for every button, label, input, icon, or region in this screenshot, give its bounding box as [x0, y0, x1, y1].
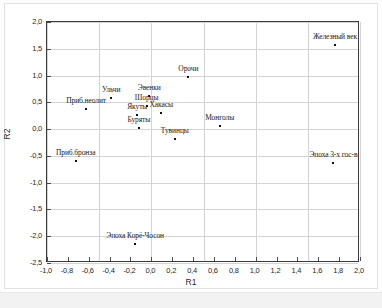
- gridline-horizontal: [47, 209, 358, 210]
- data-point-marker: [138, 127, 140, 129]
- x-axis-tick: [68, 257, 69, 261]
- x-axis-tick: [130, 257, 131, 261]
- x-axis-tick-label: 1,4: [291, 266, 301, 275]
- data-point-marker: [85, 108, 87, 110]
- x-axis-tick: [110, 257, 111, 261]
- gridline-horizontal: [47, 236, 358, 237]
- x-axis-tick-label: 0,6: [208, 266, 218, 275]
- gridline-horizontal: [47, 49, 358, 50]
- x-axis-tick: [277, 257, 278, 261]
- gridline-vertical: [151, 22, 152, 261]
- x-axis-tick: [172, 257, 173, 261]
- data-point-marker: [174, 138, 176, 140]
- data-point-label: Якуты: [127, 102, 147, 111]
- gridline-vertical: [204, 22, 205, 261]
- y-axis-tick: [47, 156, 51, 157]
- x-axis-tick: [297, 257, 298, 261]
- y-axis-tick: [47, 22, 51, 23]
- y-axis-tick-label: 2,0: [20, 17, 42, 26]
- x-axis-tick-label: 0,4: [187, 266, 197, 275]
- data-point-label: Железный век: [313, 32, 357, 41]
- data-point-marker: [160, 112, 162, 114]
- x-axis-tick-label: -0,6: [82, 266, 94, 275]
- data-point-label: Приб.бронза: [56, 148, 95, 157]
- y-axis-tick-label: 0,5: [20, 97, 42, 106]
- y-axis-tick: [47, 209, 51, 210]
- x-axis-title: R1: [0, 277, 382, 287]
- data-point-label: Эпоха Корё-Чосон: [106, 231, 164, 240]
- y-axis-tick: [47, 49, 51, 50]
- data-point-label: Эвенки: [138, 83, 161, 92]
- x-axis-tick: [235, 257, 236, 261]
- data-point-label: Орочи: [178, 64, 198, 73]
- figure-container: Железный векОрочиУльчиЭвенкиШорцыПриб.не…: [0, 0, 382, 308]
- gridline-horizontal: [47, 76, 358, 77]
- x-axis-tick-label: -0,8: [61, 266, 73, 275]
- x-axis-tick-label: 1,6: [312, 266, 322, 275]
- data-point-marker: [334, 44, 336, 46]
- x-axis-tick: [151, 257, 152, 261]
- y-axis-tick-label: -1,0: [20, 177, 42, 186]
- y-axis-tick: [47, 129, 51, 130]
- x-axis-tick: [47, 257, 48, 261]
- y-axis-tick: [47, 76, 51, 77]
- y-axis-tick-label: 0,0: [20, 124, 42, 133]
- data-point-marker: [75, 160, 77, 162]
- x-axis-tick-label: 0,8: [229, 266, 239, 275]
- y-axis-tick: [47, 183, 51, 184]
- x-axis-tick-label: -1,0: [40, 266, 52, 275]
- data-point-label: Хакасы: [150, 100, 173, 109]
- figure-footer-strip: [0, 292, 382, 308]
- y-axis-tick-label: -1,5: [20, 204, 42, 213]
- data-point-marker: [134, 243, 136, 245]
- x-axis-tick: [193, 257, 194, 261]
- gridline-vertical: [99, 22, 100, 261]
- data-point-label: Тувинцы: [161, 126, 189, 135]
- gridline-vertical: [256, 22, 257, 261]
- x-axis-tick-label: 1,0: [250, 266, 260, 275]
- data-point-marker: [219, 125, 221, 127]
- gridline-horizontal: [47, 183, 358, 184]
- x-axis-tick-label: -0,2: [123, 266, 135, 275]
- y-axis-tick-label: 1,0: [20, 70, 42, 79]
- data-point-label: Ульчи: [102, 85, 120, 94]
- x-axis-tick: [89, 257, 90, 261]
- x-axis-tick: [256, 257, 257, 261]
- x-axis-tick: [360, 257, 361, 261]
- x-axis-tick-label: 2,0: [354, 266, 364, 275]
- x-axis-tick: [339, 257, 340, 261]
- gridline-vertical: [308, 22, 309, 261]
- y-axis-title: R2: [2, 129, 12, 140]
- data-point-label: Монголы: [205, 113, 234, 122]
- x-axis-tick-label: 0,2: [166, 266, 176, 275]
- y-axis-tick: [47, 263, 51, 264]
- gridline-horizontal: [47, 263, 358, 264]
- x-axis-tick: [214, 257, 215, 261]
- y-axis-tick-label: 1,5: [20, 43, 42, 52]
- data-point-label: Эпоха 3-х гос-в: [309, 150, 357, 159]
- data-point-marker: [110, 97, 112, 99]
- data-point-label: Буряты: [127, 115, 150, 124]
- x-axis-tick-label: 1,8: [333, 266, 343, 275]
- x-axis-tick-label: -0,4: [103, 266, 115, 275]
- data-point-marker: [187, 76, 189, 78]
- y-axis-tick-label: -2,5: [20, 258, 42, 267]
- y-axis-tick: [47, 236, 51, 237]
- x-axis-tick-label: 1,2: [271, 266, 281, 275]
- data-point-marker: [332, 162, 334, 164]
- x-axis-tick-label: 0,0: [145, 266, 155, 275]
- scatter-plot-area: Железный векОрочиУльчиЭвенкиШорцыПриб.не…: [46, 21, 359, 262]
- gridline-vertical: [360, 22, 361, 261]
- y-axis-tick: [47, 102, 51, 103]
- gridline-horizontal: [47, 129, 358, 130]
- y-axis-tick-label: -0,5: [20, 150, 42, 159]
- x-axis-tick: [318, 257, 319, 261]
- gridline-vertical: [47, 22, 48, 261]
- data-point-label: Приб.неолит: [66, 96, 106, 105]
- gridline-horizontal: [47, 22, 358, 23]
- y-axis-tick-label: -2,0: [20, 231, 42, 240]
